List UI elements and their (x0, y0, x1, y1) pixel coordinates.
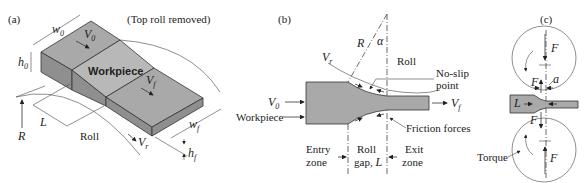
bottom-force-label: F (549, 151, 558, 165)
workpiece-label: Workpiece (88, 65, 143, 77)
vf-label: Vf (451, 96, 462, 112)
no-slip-label-1: No-slip (436, 67, 470, 79)
friction-pointer (390, 118, 406, 128)
strip-l-label: L (513, 96, 521, 110)
panel-a-label: (a) (8, 13, 21, 26)
roll-label: Roll (80, 130, 99, 142)
bottom-roll (512, 118, 576, 182)
alpha-label: α (377, 34, 384, 48)
friction-forces-label: Friction forces (406, 122, 470, 134)
panel-b: (b) R α Vr Roll No-slip point V0 Workpie… (236, 13, 470, 175)
panel-c: (c) F F a L F F Torque (477, 13, 578, 182)
torque-label: Torque (477, 151, 508, 163)
entry-zone-label-2: zone (306, 156, 327, 168)
moment-arm-label: a (553, 72, 559, 86)
radius-line (348, 14, 387, 82)
left-force-label: F (530, 75, 539, 89)
r-label: R (17, 129, 26, 143)
top-force-label: F (550, 41, 559, 55)
no-slip-pointer (370, 79, 376, 89)
vr-label: Vr (322, 50, 333, 66)
entry-zone-label-1: Entry (306, 143, 331, 155)
w0-label: w0 (52, 22, 64, 38)
top-roll (512, 26, 576, 90)
rolling-diagram: (a) (Top roll removed) Workpiece V0 Vf w… (0, 0, 588, 183)
top-rotation-arrow (526, 51, 533, 71)
exit-zone-label-2: zone (402, 156, 423, 168)
vr-label: Vr (138, 135, 149, 151)
lower-left-force-label: F (529, 113, 538, 127)
panel-c-label: (c) (540, 13, 553, 26)
v0-label: V0 (268, 95, 279, 111)
radius-label: R (356, 36, 365, 50)
top-roll-removed-note: (Top roll removed) (127, 13, 211, 26)
vr-arrow (128, 134, 136, 141)
panel-a: (a) (Top roll removed) Workpiece V0 Vf w… (8, 13, 221, 162)
workpiece-label: Workpiece (236, 111, 283, 123)
h0-label: h0 (18, 55, 28, 71)
exit-zone-label-1: Exit (405, 143, 423, 155)
hf-label: hf (188, 146, 198, 162)
workpiece-section (306, 82, 429, 124)
roll-gap-label-1: Roll (357, 143, 376, 155)
no-slip-label-2: point (436, 79, 459, 91)
bottom-rotation-arrow (526, 135, 533, 155)
wf-label: wf (189, 117, 201, 133)
roll-gap-label-2: gap, L (354, 155, 382, 169)
l-dimension (33, 105, 67, 126)
panel-b-label: (b) (278, 13, 291, 26)
torque-pointer (508, 151, 520, 157)
roll-label: Roll (397, 55, 416, 67)
l-label: L (39, 115, 47, 129)
